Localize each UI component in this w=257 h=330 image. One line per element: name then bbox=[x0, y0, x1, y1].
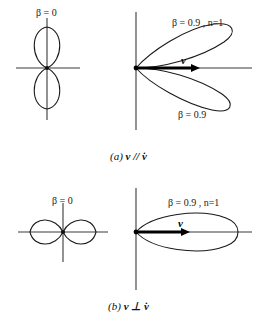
caption-b-body: v ⊥ v̇ bbox=[124, 300, 149, 312]
caption-a-body: v // v̇ bbox=[126, 150, 147, 162]
beta-label-a-right-bottom: β = 0.9 bbox=[178, 110, 206, 120]
pattern-a-right-lower-lobe bbox=[136, 68, 230, 111]
figure-canvas bbox=[0, 0, 257, 330]
velocity-arrow-b bbox=[134, 228, 190, 236]
caption-a-prefix: (a) bbox=[110, 150, 123, 162]
velocity-label-a: v bbox=[181, 54, 186, 66]
velocity-arrow-a bbox=[134, 64, 200, 72]
velocity-label-b: v bbox=[178, 217, 183, 229]
beta-label-b-left: β = 0 bbox=[52, 196, 73, 206]
beta-n-label-a-right-top: β = 0.9 , n=1 bbox=[172, 18, 223, 28]
caption-b-prefix: (b) bbox=[108, 300, 121, 312]
beta-n-label-b-right-top: β = 0.9 , n=1 bbox=[168, 198, 219, 208]
beta-label-a-left: β = 0 bbox=[36, 8, 57, 18]
caption-panel-b: (b) v ⊥ v̇ bbox=[0, 300, 257, 313]
caption-panel-a: (a) v // v̇ bbox=[0, 150, 257, 162]
radiation-pattern-figure: β = 0 β = 0.9 , n=1 β = 0.9 v (a) v // v… bbox=[0, 0, 257, 330]
